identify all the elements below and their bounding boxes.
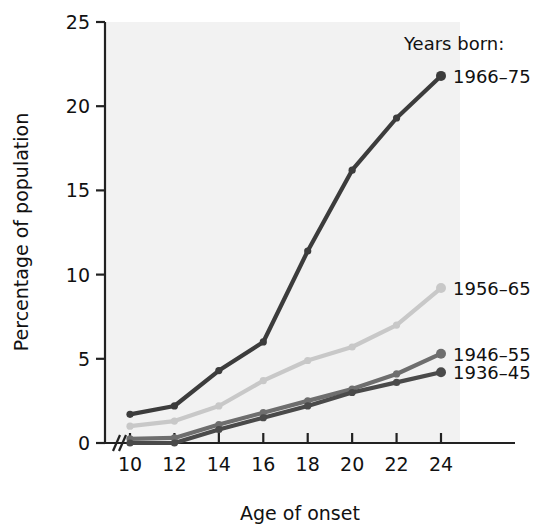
data-point [171,418,178,425]
data-point [436,367,446,377]
data-point [304,402,311,409]
x-tick-label: 24 [429,453,453,475]
y-tick-label: 15 [66,179,90,201]
data-point [349,389,356,396]
data-point [349,343,356,350]
x-tick-label: 10 [118,453,142,475]
x-axis-title: Age of onset [240,502,360,524]
data-point [126,423,133,430]
y-axis-title: Percentage of population [10,113,32,351]
data-point [304,247,311,254]
data-point [349,167,356,174]
data-point [436,283,446,293]
chart-container: 0510152025 1012141618202224 Percentage o… [0,0,552,531]
y-axis: 0510152025 [66,11,105,454]
y-axis-tick-labels: 0510152025 [66,11,90,454]
y-tick-label: 20 [66,95,90,117]
legend-label-1966–75: 1966–75 [453,66,531,87]
x-tick-label: 20 [340,453,364,475]
legend-label-1936–45: 1936–45 [453,362,531,383]
data-point [393,370,400,377]
data-point [126,439,133,446]
data-point [436,349,446,359]
data-point [436,71,446,81]
line-chart: 0510152025 1012141618202224 Percentage o… [0,0,552,531]
legend-label-1956–65: 1956–65 [453,278,531,299]
x-tick-label: 14 [207,453,231,475]
y-tick-label: 5 [78,348,90,370]
legend-labels: 1966–751956–651946–551936–45 [453,66,531,383]
x-axis-tick-labels: 1012141618202224 [118,453,453,475]
y-tick-label: 10 [66,264,90,286]
y-tick-label: 25 [66,11,90,33]
data-point [215,426,222,433]
data-point [215,402,222,409]
x-tick-label: 16 [251,453,275,475]
data-point [171,439,178,446]
data-point [260,414,267,421]
x-tick-label: 12 [162,453,186,475]
data-point [393,379,400,386]
data-point [171,402,178,409]
data-point [393,322,400,329]
data-point [260,377,267,384]
data-point [126,411,133,418]
y-axis-ticks [96,22,105,443]
y-tick-label: 0 [78,432,90,454]
x-tick-label: 18 [296,453,320,475]
data-point [215,367,222,374]
x-tick-label: 22 [384,453,408,475]
data-point [304,357,311,364]
data-point [393,114,400,121]
legend-heading: Years born: [403,33,504,54]
data-point [260,338,267,345]
